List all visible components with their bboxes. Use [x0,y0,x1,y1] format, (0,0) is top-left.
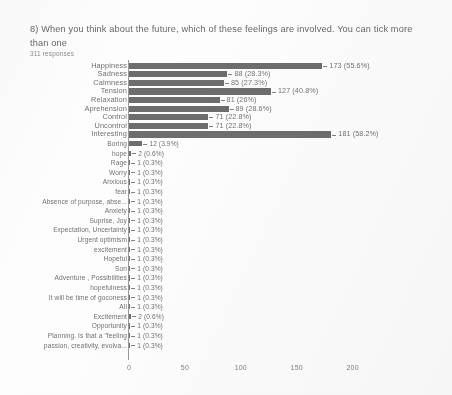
bar-chart: Happiness173 (55.6%)Sadness88 (28.3%)Cal… [0,60,452,360]
value-leader-line [132,316,136,317]
bar-value-label: 1 (0.3%) [137,235,163,245]
bar-row: Expectation, Uncertainty1 (0.3%) [0,225,452,235]
bar [129,123,208,129]
value-leader-line [272,92,276,93]
value-leader-line [131,249,135,250]
value-leader-line [132,153,136,154]
bar [129,106,229,112]
bar [129,304,130,309]
bar-row: Anxiety1 (0.3%) [0,206,452,216]
bar-value-label: 85 (27.3%) [231,79,267,88]
bar-row: Suprise, Joy1 (0.3%) [0,216,452,226]
bar-value-label: 1 (0.3%) [137,206,163,216]
bar-value-label: 1 (0.3%) [137,283,163,293]
value-leader-line [221,100,225,101]
question-title: 8) When you think about the future, whic… [30,23,430,50]
bar-row: Urgent optimism1 (0.3%) [0,235,452,245]
bar-row: Tension127 (40.8%) [0,87,452,96]
value-leader-line [332,135,336,136]
bar [129,97,220,103]
value-leader-line [131,288,135,289]
bar [129,256,130,261]
value-leader-line [230,109,234,110]
value-leader-line [131,268,135,269]
bar [129,275,130,280]
x-axis-tick: 50 [181,364,189,371]
bar-row: Anxious1 (0.3%) [0,177,452,187]
bar-row: Rage1 (0.3%) [0,158,452,168]
bar-category-label: passion, creativity, evolva... [44,341,127,351]
bar-row: Interesting181 (58.2%) [0,130,452,139]
bar [129,71,227,77]
x-axis-tick: 0 [127,364,131,371]
bar-category-label: Rage [111,158,127,168]
value-leader-line [131,278,135,279]
bar [129,160,130,165]
bar [129,285,130,290]
bar-category-label: fear [115,187,127,197]
value-leader-line [131,259,135,260]
value-leader-line [131,326,135,327]
bar-value-label: 1 (0.3%) [137,254,163,264]
bar-value-label: 1 (0.3%) [137,341,163,351]
bar-category-label: Planning. Is that a "feeling [48,331,127,341]
bar-row: hope2 (0.6%) [0,149,452,159]
value-leader-line [131,192,135,193]
bar-category-label: excitement [94,245,127,255]
bar-category-label: hopefulness [90,283,127,293]
bar-value-label: 1 (0.3%) [137,321,163,331]
value-leader-line [225,83,229,84]
bar-value-label: 1 (0.3%) [137,225,163,235]
bar-value-label: 181 (58.2%) [338,130,378,139]
value-leader-line [131,201,135,202]
bar-row: Hopeful1 (0.3%) [0,254,452,264]
value-leader-line [131,182,135,183]
bar [129,131,331,137]
bar-value-label: 1 (0.3%) [137,293,163,303]
bar-row: passion, creativity, evolva...1 (0.3%) [0,341,452,351]
bar [129,179,130,184]
bar-row: Uncontrol71 (22.8%) [0,122,452,131]
value-leader-line [143,144,147,145]
bar-value-label: 1 (0.3%) [137,168,163,178]
bar-row: It will be time of goconess1 (0.3%) [0,293,452,303]
bar-row: Opportunity1 (0.3%) [0,321,452,331]
bar-value-label: 1 (0.3%) [137,245,163,255]
x-axis-tick: 100 [235,364,247,371]
value-leader-line [209,126,213,127]
bar [129,141,142,146]
value-leader-line [228,74,232,75]
bar [129,314,131,319]
bar-row: Relaxation81 (26%) [0,96,452,105]
bar-category-label: Urgent optimism [77,235,127,245]
bar-value-label: 1 (0.3%) [137,216,163,226]
bar [129,189,130,194]
bar-row: Worry1 (0.3%) [0,168,452,178]
bar [129,295,130,300]
bar [129,333,130,338]
x-axis: 050100150200 [0,364,452,380]
bar-value-label: 127 (40.8%) [278,87,318,96]
bar [129,63,322,69]
value-leader-line [131,230,135,231]
bar-row: excitement1 (0.3%) [0,245,452,255]
bar-value-label: 1 (0.3%) [137,302,163,312]
bar-value-label: 1 (0.3%) [137,158,163,168]
bar-row: All1 (0.3%) [0,302,452,312]
bar-category-label: Boring [107,139,127,149]
bar-row: Boring12 (3.9%) [0,139,452,149]
bar [129,170,130,175]
bar-category-label: It will be time of goconess [49,293,127,303]
bar-row: fear1 (0.3%) [0,187,452,197]
x-axis-tick: 150 [291,364,303,371]
bar [129,343,130,348]
value-leader-line [209,117,213,118]
bar [129,199,130,204]
bar-value-label: 173 (55.6%) [329,62,369,71]
bar [129,88,271,94]
bar-value-label: 1 (0.3%) [137,187,163,197]
value-leader-line [131,240,135,241]
bar [129,227,130,232]
bar-value-label: 1 (0.3%) [137,331,163,341]
value-leader-line [323,66,327,67]
